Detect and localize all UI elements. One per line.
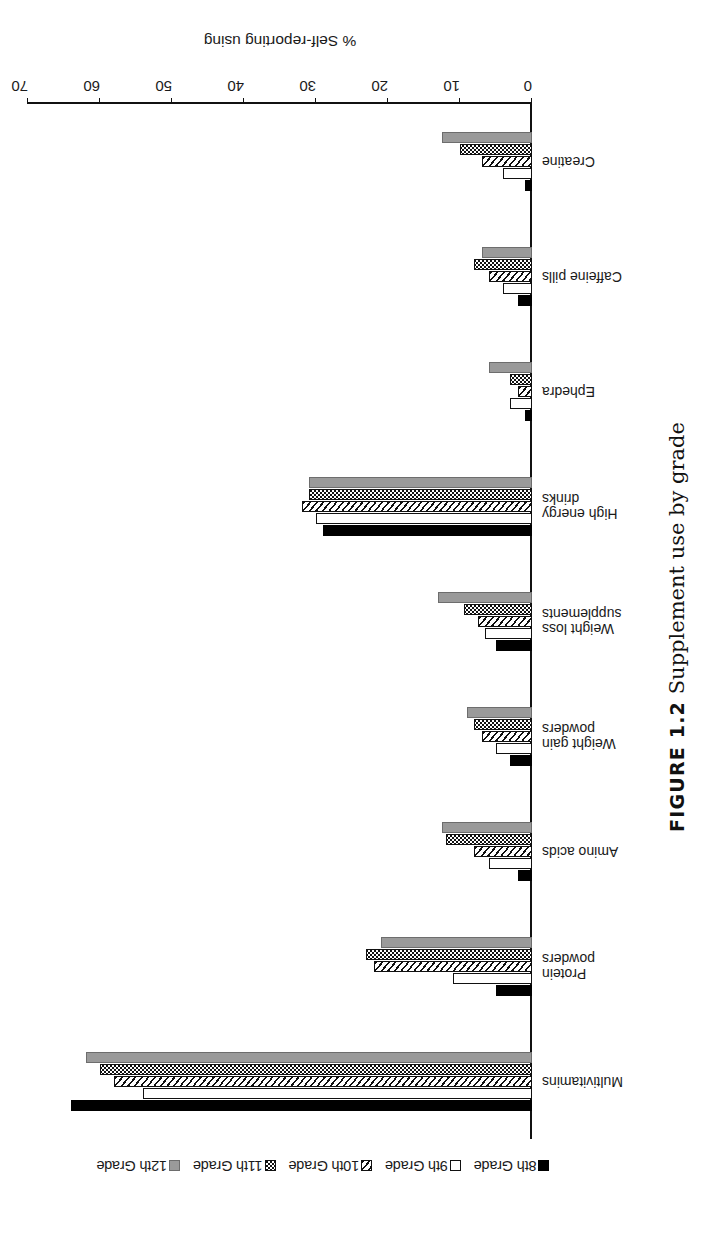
category-axis-labels: MultivitaminsProtein powdersAmino acidsW… (536, 104, 628, 1139)
value-axis: 010203040506070 (28, 74, 532, 104)
bar (446, 834, 532, 845)
value-axis-line (28, 102, 532, 104)
bar (381, 937, 532, 948)
bar (438, 592, 532, 603)
bar (518, 386, 532, 397)
bar-row (28, 477, 532, 488)
legend-swatch-diagonal-icon (361, 1161, 372, 1172)
bar-row (28, 640, 532, 651)
bar (464, 604, 532, 615)
bar (510, 398, 532, 409)
bar-row (28, 846, 532, 857)
bar-row (28, 398, 532, 409)
legend-label: 11th Grade (193, 1158, 262, 1174)
legend-swatch-dotted-icon (265, 1161, 276, 1172)
figure-page: 8th Grade9th Grade10th Grade11th Grade12… (0, 0, 712, 1253)
category-label: Amino acids (536, 794, 628, 909)
bar-row (28, 489, 532, 500)
legend-item: 11th Grade (193, 1158, 275, 1174)
tick-mark (99, 98, 100, 104)
bar-row (28, 973, 532, 984)
bar-row (28, 525, 532, 536)
bar-group (28, 219, 532, 334)
bar-row (28, 707, 532, 718)
bar (143, 1088, 532, 1099)
bar-row (28, 410, 532, 421)
bar (467, 707, 532, 718)
figure-caption: FIGURE 1.2 Supplement use by grade (648, 0, 706, 1253)
tick-mark (243, 98, 244, 104)
bar (510, 374, 532, 385)
bar-group (28, 449, 532, 564)
bar-group (28, 794, 532, 909)
tick-mark (315, 98, 316, 104)
bar (503, 168, 532, 179)
bar-row (28, 271, 532, 282)
bar (496, 985, 532, 996)
tick-mark (531, 98, 532, 104)
bar (309, 477, 532, 488)
bar-row (28, 1064, 532, 1075)
bar (489, 858, 532, 869)
bar-row (28, 168, 532, 179)
category-label: Ephedra (536, 334, 628, 449)
chart-rotation-wrapper: 8th Grade9th Grade10th Grade11th Grade12… (18, 8, 628, 1183)
bar-row (28, 616, 532, 627)
bar (496, 743, 532, 754)
bar-group (28, 564, 532, 679)
bar-row (28, 362, 532, 373)
bar (86, 1052, 532, 1063)
bar-row (28, 628, 532, 639)
bar (474, 846, 532, 857)
category-label: Protein powders (536, 909, 628, 1024)
bar (489, 362, 532, 373)
legend-swatch-solid-icon (539, 1161, 550, 1172)
bar-group (28, 334, 532, 449)
bar-row (28, 1076, 532, 1087)
legend-item: 10th Grade (289, 1158, 373, 1174)
bar (114, 1076, 532, 1087)
legend-item: 12th Grade (97, 1158, 181, 1174)
tick-mark (387, 98, 388, 104)
bar-row (28, 870, 532, 881)
plot-area (28, 104, 532, 1139)
bar-group (28, 909, 532, 1024)
bar (316, 513, 532, 524)
legend-swatch-open-icon (450, 1161, 461, 1172)
value-axis-title: % Self-reporting using (28, 32, 532, 50)
bar (485, 628, 532, 639)
tick-mark (27, 98, 28, 104)
legend-label: 9th Grade (385, 1158, 448, 1174)
chart-legend: 8th Grade9th Grade10th Grade11th Grade12… (18, 1149, 628, 1183)
bar-group (28, 104, 532, 219)
bar-row (28, 1100, 532, 1111)
bar (503, 283, 532, 294)
legend-swatch-gray-icon (169, 1161, 180, 1172)
category-label: Multivitamins (536, 1024, 628, 1139)
legend-label: 10th Grade (289, 1158, 360, 1174)
bar (474, 719, 532, 730)
bar-group (28, 679, 532, 794)
bar-row (28, 386, 532, 397)
bar-group (28, 1024, 532, 1139)
bar-row (28, 501, 532, 512)
bar-row (28, 180, 532, 191)
bar-row (28, 592, 532, 603)
bar-row (28, 295, 532, 306)
bar-row (28, 937, 532, 948)
legend-label: 12th Grade (97, 1158, 168, 1174)
bar (482, 156, 532, 167)
figure-number: FIGURE 1.2 (666, 700, 688, 831)
bar-row (28, 144, 532, 155)
tick-mark (171, 98, 172, 104)
bar-row (28, 961, 532, 972)
bar-row (28, 374, 532, 385)
bar-row (28, 719, 532, 730)
legend-label: 8th Grade (474, 1158, 537, 1174)
category-label: High energy drinks (536, 449, 628, 564)
bar (525, 410, 532, 421)
bar (478, 616, 532, 627)
bar (510, 755, 532, 766)
tick-mark (459, 98, 460, 104)
bar (302, 501, 532, 512)
